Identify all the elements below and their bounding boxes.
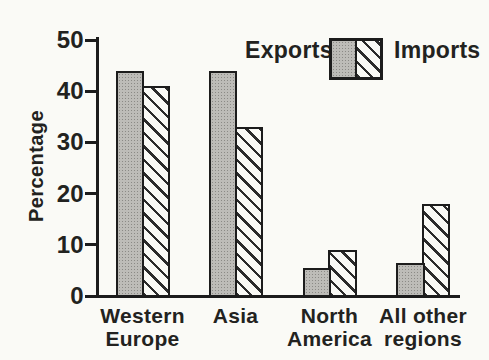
y-tick-10 [85, 243, 96, 246]
y-tick-label-50: 50 [26, 27, 84, 53]
y-tick-50 [85, 39, 96, 42]
bar-imports-asia [234, 127, 263, 297]
y-tick-20 [85, 192, 96, 195]
y-tick-label-10: 10 [26, 232, 84, 258]
y-tick-0 [85, 295, 96, 298]
legend-imports-label: Imports [394, 37, 489, 63]
bar-exports-north-america [303, 268, 332, 297]
bar-exports-all-other-regions [396, 263, 425, 297]
legend-exports-swatch [332, 41, 357, 77]
bar-exports-western-europe [116, 71, 145, 297]
bar-chart-figure: Percentage 01020304050 Western EuropeAsi… [0, 0, 489, 360]
y-tick-30 [85, 141, 96, 144]
y-tick-label-30: 30 [26, 129, 84, 155]
bar-exports-asia [209, 71, 238, 297]
y-tick-40 [85, 90, 96, 93]
bar-imports-all-other-regions [422, 204, 451, 297]
x-category-label-all-other-regions: All other regions [348, 304, 489, 350]
legend-imports-swatch [357, 41, 380, 77]
bar-imports-north-america [328, 250, 357, 297]
y-tick-label-40: 40 [26, 78, 84, 104]
legend-exports-label: Exports [245, 37, 321, 63]
bar-imports-western-europe [141, 86, 170, 297]
y-tick-label-20: 20 [26, 181, 84, 207]
legend-swatch [329, 38, 383, 80]
y-axis-line [96, 37, 99, 298]
